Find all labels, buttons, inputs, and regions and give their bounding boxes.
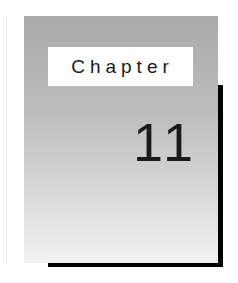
- dotted-margin-rule: [6, 16, 7, 263]
- chapter-label-box: Chapter: [48, 47, 193, 86]
- panel-shadow-bottom: [48, 263, 223, 267]
- chapter-label: Chapter: [67, 56, 174, 78]
- panel-shadow-right: [218, 85, 223, 267]
- chapter-number: 11: [120, 112, 210, 172]
